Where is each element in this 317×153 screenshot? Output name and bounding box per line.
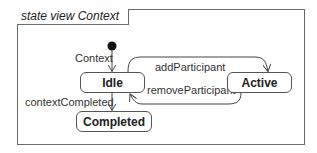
state-diagram: state view Context Context addParticipan… bbox=[0, 0, 317, 153]
remove-participant-label: removeParticipant bbox=[147, 84, 236, 96]
state-idle-label: Idle bbox=[102, 76, 123, 90]
state-completed-label: Completed bbox=[83, 115, 145, 129]
initial-state-dot bbox=[108, 42, 117, 51]
state-completed: Completed bbox=[76, 111, 152, 132]
context-completed-label: contextCompleted bbox=[25, 96, 114, 108]
state-active-label: Active bbox=[241, 76, 277, 90]
add-participant-label: addParticipant bbox=[155, 61, 225, 73]
state-idle: Idle bbox=[80, 72, 145, 93]
initial-transition-label: Context bbox=[75, 52, 113, 64]
state-active: Active bbox=[227, 72, 292, 93]
